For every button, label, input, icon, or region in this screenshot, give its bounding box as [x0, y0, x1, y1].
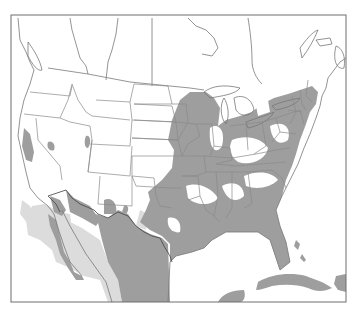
map-canvas: [0, 0, 361, 309]
canada-borders: [48, 18, 204, 90]
range-map: [0, 0, 361, 309]
primary-range: [22, 86, 346, 302]
